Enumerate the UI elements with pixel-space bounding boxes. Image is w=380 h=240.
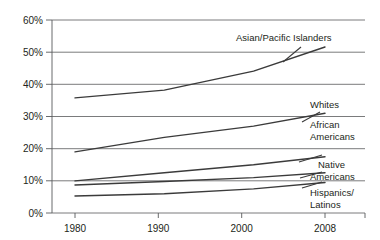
y-tick-label-10: 10%: [23, 175, 43, 186]
series-label-native-americans-line2: Americans: [310, 171, 355, 182]
chart-canvas: 60% 50% 40% 30% 20% 10% 0% 1980 1990 200…: [0, 0, 380, 240]
series-label-native-americans-line1: Native: [318, 159, 345, 170]
series-line-asian-pacific-islanders: [75, 47, 325, 98]
x-tick-label-1990: 1990: [147, 223, 170, 234]
series-line-native-americans: [75, 173, 325, 185]
series-lines: [75, 47, 325, 196]
x-axis-tick-labels: 1980 1990 2000 2008: [64, 223, 337, 234]
y-tick-label-0: 0%: [29, 208, 44, 219]
line-chart: 60% 50% 40% 30% 20% 10% 0% 1980 1990 200…: [0, 0, 380, 240]
y-tick-label-40: 40%: [23, 79, 43, 90]
y-axis-tick-labels: 60% 50% 40% 30% 20% 10% 0%: [23, 15, 43, 219]
y-tick-label-50: 50%: [23, 47, 43, 58]
x-tick-label-1980: 1980: [64, 223, 87, 234]
series-label-hispanics-latinos-line2: Latinos: [310, 199, 341, 210]
leader-line-asian-pacific-islanders: [283, 47, 301, 62]
series-label-african-americans-line2: Americans: [310, 131, 355, 142]
y-tick-marks: [46, 20, 52, 213]
series-line-hispanics-latinos: [75, 182, 325, 196]
series-label-hispanics-latinos-line1: Hispanics/: [310, 187, 354, 198]
x-tick-label-2008: 2008: [314, 223, 337, 234]
y-tick-label-60: 60%: [23, 15, 43, 26]
series-line-african-americans: [75, 157, 325, 181]
y-tick-label-30: 30%: [23, 111, 43, 122]
x-tick-label-2000: 2000: [231, 223, 254, 234]
series-label-whites: Whites: [310, 99, 339, 110]
series-line-whites: [75, 113, 325, 152]
y-tick-label-20: 20%: [23, 143, 43, 154]
series-label-african-americans-line1: African: [310, 119, 340, 130]
series-labels: Asian/Pacific Islanders Whites African A…: [236, 32, 355, 210]
series-label-asian-pacific-islanders: Asian/Pacific Islanders: [236, 32, 332, 43]
x-tick-marks: [75, 213, 365, 218]
